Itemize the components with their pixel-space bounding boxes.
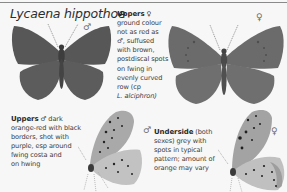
female-upperside-caption: Uppers ♀ ground colour not as red as ♂, … xyxy=(117,10,171,101)
caption-line: on fwing in xyxy=(117,65,171,74)
female-symbol-underside: ♀ xyxy=(271,126,278,136)
female-symbol: ♀ xyxy=(146,10,151,18)
female-symbol-upperside: ♀ xyxy=(256,12,263,22)
male-upperside-butterfly-illustration xyxy=(8,22,116,102)
male-symbol-upperside: ♂ xyxy=(83,22,91,32)
caption-heading: Uppers xyxy=(11,115,38,123)
caption-line: row (cp xyxy=(117,83,171,92)
caption-line: borders, shot with xyxy=(11,133,87,142)
female-upperside-butterfly-illustration xyxy=(166,24,287,106)
male-upperside-caption: Uppers ♂ dark orange-red with black bord… xyxy=(11,115,87,170)
page-top-rule xyxy=(0,2,287,3)
caption-line: on hwing xyxy=(11,160,87,169)
caption-heading: Underside xyxy=(154,128,193,136)
caption-line: ♂, suffused xyxy=(117,37,171,46)
caption-line: ground colour xyxy=(117,19,171,28)
caption-line: with brown, xyxy=(117,46,171,55)
caption-line: orange-red with black xyxy=(11,124,87,133)
male-symbol-underside: ♂ xyxy=(143,125,151,135)
caption-line: fwing costa and xyxy=(11,151,87,160)
male-symbol: ♂ xyxy=(40,115,46,123)
species-title: Lycaena hippothoe xyxy=(10,6,125,21)
female-underside-butterfly-illustration xyxy=(218,108,287,192)
caption-line: evenly curved xyxy=(117,74,171,83)
caption-line: L. alciphron) xyxy=(117,92,171,101)
caption-line: not as red as xyxy=(117,28,171,37)
caption-text: (both xyxy=(195,128,212,136)
caption-line: postdiscal spots xyxy=(117,55,171,64)
caption-line: purple, esp around xyxy=(11,142,87,151)
male-underside-butterfly-illustration xyxy=(78,108,144,192)
caption-text: dark xyxy=(48,115,62,123)
caption-heading: Uppers xyxy=(117,10,144,18)
